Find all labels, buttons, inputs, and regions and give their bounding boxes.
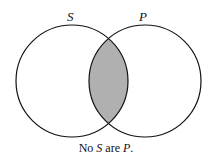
caption-suffix: . (130, 141, 133, 155)
label-s: S (67, 9, 74, 25)
caption-middle: are (102, 141, 123, 155)
caption: No S are P. (0, 141, 212, 156)
label-p: P (139, 9, 147, 25)
caption-prefix: No (79, 141, 97, 155)
venn-diagram (0, 0, 212, 163)
